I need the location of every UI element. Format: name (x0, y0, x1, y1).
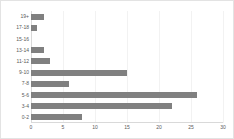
y-tick-label: 3-4 (3, 104, 29, 109)
y-axis-tick-labels: 19+17-1815-1613-1411-129-107-85-63-40-2 (1, 11, 29, 123)
bar (31, 81, 69, 87)
bar-row (31, 78, 69, 89)
y-tick-label: 0-2 (3, 115, 29, 120)
x-tick-label: 5 (62, 125, 65, 130)
bar (31, 58, 50, 64)
y-tick-label: 9-10 (3, 70, 29, 75)
y-tick-label: 11-12 (3, 59, 29, 64)
x-tick-label: 0 (30, 125, 33, 130)
bar-row (31, 112, 82, 123)
y-tick-label: 13-14 (3, 48, 29, 53)
bar-row (31, 11, 44, 22)
x-tick-label: 15 (124, 125, 130, 130)
bar (31, 47, 44, 53)
bar (31, 25, 37, 31)
bar-row (31, 89, 197, 100)
x-tick-label: 25 (188, 125, 194, 130)
y-tick-label: 17-18 (3, 25, 29, 30)
bar-row (31, 45, 44, 56)
x-axis-tick-labels: 051015202530 (31, 125, 223, 135)
bar-row (31, 56, 50, 67)
y-tick-label: 15-16 (3, 37, 29, 42)
bar (31, 103, 172, 109)
bar (31, 70, 127, 76)
bar (31, 92, 197, 98)
x-tick-label: 10 (92, 125, 98, 130)
bar (31, 14, 44, 20)
x-tick-label: 30 (220, 125, 226, 130)
bar-row (31, 101, 172, 112)
bar-row (31, 22, 37, 33)
bar (31, 114, 82, 120)
bar-row (31, 67, 127, 78)
bar-chart: 19+17-1815-1613-1411-129-107-85-63-40-2 … (0, 0, 234, 139)
x-tick-label: 20 (156, 125, 162, 130)
gridline (191, 11, 192, 123)
gridline (223, 11, 224, 123)
y-tick-label: 5-6 (3, 93, 29, 98)
y-tick-label: 7-8 (3, 81, 29, 86)
plot-area (31, 11, 223, 123)
y-tick-label: 19+ (3, 14, 29, 19)
